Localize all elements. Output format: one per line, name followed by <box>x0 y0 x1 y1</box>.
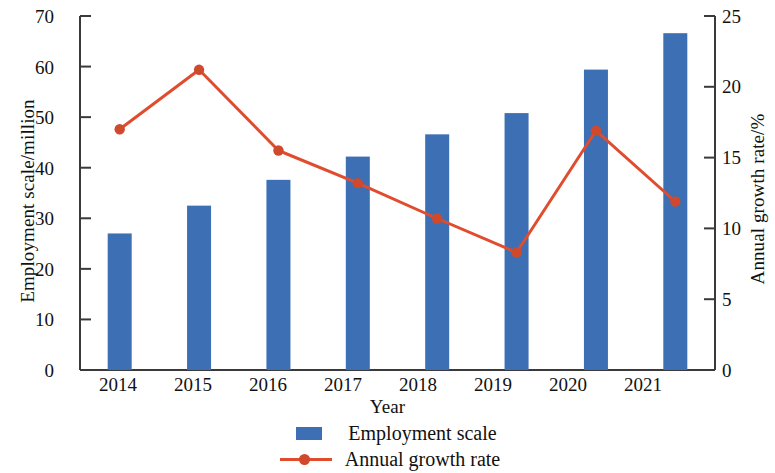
bar-2018 <box>425 134 449 370</box>
bar-swatch-icon <box>296 427 322 440</box>
line-marker-2020 <box>591 125 601 135</box>
bar-2015 <box>187 206 211 370</box>
axis-spines <box>80 16 715 370</box>
bar-2016 <box>266 180 290 370</box>
line-marker-2016 <box>273 145 283 155</box>
line-marker-2018 <box>432 213 442 223</box>
legend-item-employment-scale: Employment scale <box>0 420 775 446</box>
y-axis-left-ticks <box>80 16 91 370</box>
line-marker-2021 <box>670 196 680 206</box>
legend-item-annual-growth-rate: Annual growth rate <box>0 446 775 472</box>
chart-legend: Employment scale Annual growth rate <box>0 420 775 472</box>
legend-label-employment-scale: Employment scale <box>340 422 496 445</box>
bar-2020 <box>584 70 608 370</box>
bar-2014 <box>108 233 132 370</box>
legend-label-annual-growth-rate: Annual growth rate <box>337 448 501 471</box>
legend-swatch-wrap <box>275 452 337 466</box>
line-marker-2019 <box>511 247 521 257</box>
bar-2017 <box>346 157 370 370</box>
chart-figure: Employment scale/million Annual growth r… <box>0 0 775 473</box>
line-marker-2014 <box>114 124 124 134</box>
line-marker-2017 <box>353 178 363 188</box>
line-marker-2015 <box>194 65 204 75</box>
line-marker-swatch-icon <box>280 452 332 466</box>
plot-area <box>0 0 775 473</box>
legend-swatch-wrap <box>278 427 340 440</box>
y-axis-right-ticks <box>704 16 715 370</box>
